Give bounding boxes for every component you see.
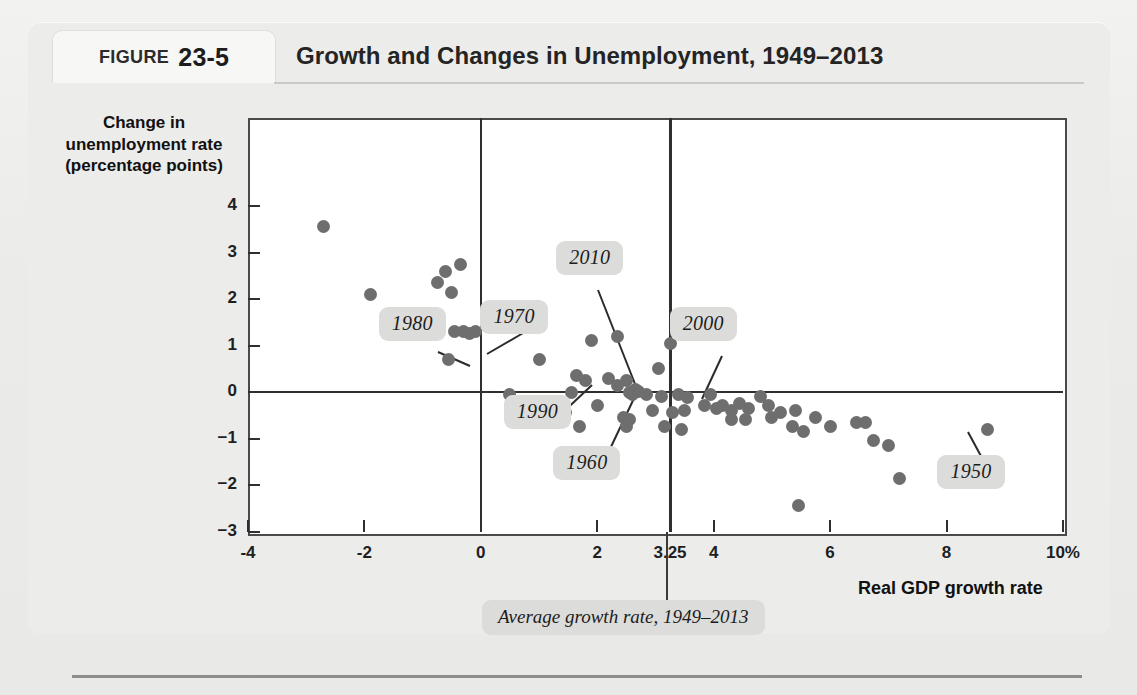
data-point <box>809 411 822 424</box>
data-point <box>882 439 895 452</box>
leader-1950 <box>968 432 982 458</box>
x-tick-label: -4 <box>208 543 288 563</box>
data-point <box>646 404 659 417</box>
x-tick <box>247 520 249 532</box>
data-point <box>431 276 444 289</box>
x-tick-label: 10% <box>1023 543 1103 563</box>
x-tick <box>596 520 598 532</box>
bottom-divider <box>72 675 1082 678</box>
x-tick <box>829 520 831 532</box>
data-point <box>573 420 586 433</box>
y-tick <box>248 298 260 300</box>
y-tick <box>248 252 260 254</box>
data-point <box>867 434 880 447</box>
callout-1950: 1950 <box>937 455 1004 489</box>
data-point <box>640 388 653 401</box>
figure-page: FIGURE 23-5 Growth and Changes in Unempl… <box>0 0 1137 695</box>
callout-1970: 1970 <box>480 300 547 334</box>
callout-1990: 1990 <box>504 395 571 429</box>
data-point <box>739 413 752 426</box>
average-growth-note: Average growth rate, 1949–2013 <box>482 600 765 635</box>
x-tick <box>480 520 482 532</box>
data-point <box>591 399 604 412</box>
x-tick-label: -2 <box>324 543 404 563</box>
data-point <box>981 423 994 436</box>
y-tick <box>248 438 260 440</box>
y-tick-label: 4 <box>185 195 237 215</box>
data-point <box>792 499 805 512</box>
x-tick <box>363 520 365 532</box>
data-point <box>533 353 546 366</box>
x-tick-label: 2 <box>557 543 637 563</box>
x-tick <box>669 520 671 532</box>
data-point <box>317 220 330 233</box>
data-point <box>655 390 668 403</box>
y-tick-label: −3 <box>185 521 237 541</box>
data-point <box>797 425 810 438</box>
data-point <box>893 472 906 485</box>
data-point <box>623 413 636 426</box>
x-tick-label: 4 <box>674 543 754 563</box>
data-point <box>725 413 738 426</box>
data-point <box>579 374 592 387</box>
data-point <box>859 416 872 429</box>
scatter-chart: 43210−1−2−3-4-2023.2546810%1980197020102… <box>0 0 1137 695</box>
y-tick <box>248 345 260 347</box>
data-point <box>652 362 665 375</box>
data-point <box>454 258 467 271</box>
callout-2010: 2010 <box>556 241 623 275</box>
x-tick-label: 8 <box>907 543 987 563</box>
x-tick-label: 0 <box>441 543 521 563</box>
average-growth-stem <box>666 532 668 600</box>
data-point <box>585 334 598 347</box>
y-tick <box>248 531 260 533</box>
callout-2000: 2000 <box>670 307 737 341</box>
y-tick-label: 3 <box>185 242 237 262</box>
data-point <box>611 330 624 343</box>
data-point <box>442 353 455 366</box>
callout-1980: 1980 <box>379 307 446 341</box>
data-point <box>439 265 452 278</box>
data-point <box>364 288 377 301</box>
callout-1960: 1960 <box>553 446 620 480</box>
data-point <box>824 420 837 433</box>
y-tick-label: 0 <box>185 381 237 401</box>
data-point <box>742 402 755 415</box>
y-tick <box>248 484 260 486</box>
y-tick-label: 2 <box>185 288 237 308</box>
y-tick-label: −2 <box>185 474 237 494</box>
callout-leader-lines <box>0 0 1137 695</box>
x-tick <box>713 520 715 532</box>
data-point <box>675 423 688 436</box>
data-point <box>445 286 458 299</box>
y-tick <box>248 205 260 207</box>
data-point <box>678 404 691 417</box>
y-tick-label: 1 <box>185 335 237 355</box>
x-tick-label: 6 <box>790 543 870 563</box>
x-tick <box>1062 520 1064 532</box>
data-point <box>774 406 787 419</box>
data-point <box>789 404 802 417</box>
y-tick-label: −1 <box>185 428 237 448</box>
x-tick <box>946 520 948 532</box>
data-point <box>681 391 694 404</box>
data-point <box>658 420 671 433</box>
